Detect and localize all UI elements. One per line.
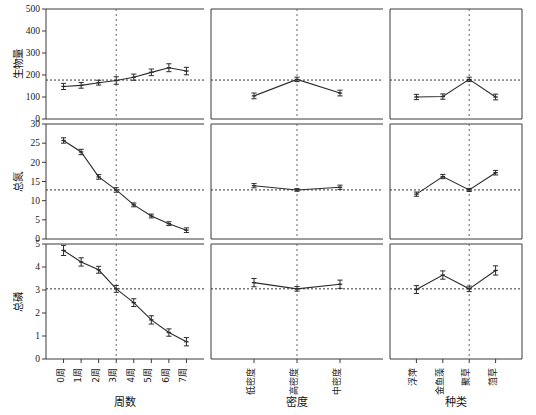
data-point	[61, 83, 66, 89]
data-point	[467, 188, 472, 191]
data-line	[416, 173, 495, 194]
x-axis-title-col2: 密度	[286, 395, 308, 409]
x-axis-title-col3: 种类	[445, 395, 467, 409]
data-point	[337, 280, 342, 288]
y-tick-label: 15	[31, 177, 41, 187]
y-tick-label: 20	[31, 158, 41, 168]
data-point	[166, 329, 171, 336]
data-point	[131, 299, 136, 307]
x-tick-label: 7周	[178, 368, 188, 383]
panel-r2c3	[390, 124, 522, 239]
y-axis-title-row3: 总磷	[12, 291, 24, 312]
data-point	[440, 271, 445, 279]
data-point	[251, 93, 256, 99]
panel-r2c2	[211, 124, 383, 239]
y-tick-label: 100	[26, 92, 41, 102]
y-tick-label: 30	[31, 119, 41, 129]
y-axis-title-row1: 生物量	[12, 48, 24, 79]
y-tick-label: 1	[35, 331, 40, 341]
data-point	[337, 90, 342, 96]
x-tick-label: 0周	[56, 368, 66, 383]
panel-r1c1	[46, 9, 204, 119]
data-point	[166, 64, 171, 72]
panel-grid: 0100200300400500生物量051015202530总氮012345总…	[12, 4, 46, 364]
panel-r1c2	[211, 9, 383, 119]
x-tick-label: 浮萍	[407, 368, 418, 386]
data-point	[96, 80, 101, 85]
data-point	[251, 279, 256, 287]
data-point	[79, 258, 84, 266]
data-point	[61, 245, 66, 255]
panel-r3c1: 0周1周2周3周4周5周6周7周周数	[46, 244, 204, 409]
data-point	[440, 94, 445, 99]
figure-container: 0100200300400500生物量051015202530总氮012345总…	[0, 0, 536, 415]
x-tick-label: 3周	[108, 368, 118, 383]
data-point	[184, 338, 189, 346]
x-tick-label: 菹草	[487, 368, 498, 386]
x-tick-label: 低密度	[245, 368, 256, 395]
y-tick-label: 5	[35, 215, 40, 225]
data-point	[61, 138, 66, 143]
data-point	[414, 286, 419, 294]
y-tick-label: 3	[35, 285, 40, 295]
x-tick-label: 聚草	[460, 368, 471, 386]
y-tick-label: 200	[26, 70, 41, 80]
x-tick-label: 5周	[143, 368, 153, 383]
data-line	[64, 250, 187, 341]
x-tick-label: 1周	[73, 368, 83, 383]
x-tick-label: 金鱼藻	[434, 368, 445, 395]
y-tick-label: 10	[31, 196, 41, 206]
data-point	[294, 77, 299, 81]
y-axis-title-row2: 总氮	[12, 171, 24, 192]
data-point	[493, 266, 498, 275]
data-point	[131, 74, 136, 80]
data-point	[184, 228, 189, 233]
x-tick-label: 高密度	[288, 368, 299, 395]
y-tick-label: 4	[35, 262, 40, 272]
panel-r3c2: 低密度高密度中密度密度	[211, 244, 383, 409]
data-point	[184, 67, 189, 74]
y-tick-label: 300	[26, 48, 41, 58]
x-tick-label: 6周	[161, 368, 171, 383]
data-point	[294, 189, 299, 192]
x-tick-label: 4周	[126, 368, 136, 383]
y-tick-label: 5	[35, 239, 40, 249]
data-line	[416, 270, 495, 289]
data-line	[416, 79, 495, 97]
x-tick-label: 2周	[91, 368, 101, 383]
y-tick-label: 25	[31, 138, 41, 148]
y-tick-label: 0	[35, 354, 40, 364]
y-tick-label: 2	[35, 308, 40, 318]
data-point	[414, 94, 419, 99]
panel-r3c3: 浮萍金鱼藻聚草菹草种类	[390, 244, 522, 409]
data-point	[79, 82, 84, 88]
data-line	[64, 140, 187, 230]
x-axis-title-col1: 周数	[114, 396, 136, 409]
data-point	[251, 184, 256, 188]
data-point	[337, 185, 342, 189]
data-line	[64, 68, 187, 87]
panel-r1c3	[390, 9, 522, 119]
data-point	[114, 77, 119, 84]
data-point	[149, 316, 154, 324]
x-tick-label: 中密度	[331, 368, 342, 395]
data-point	[493, 94, 498, 100]
panel-r2c1	[46, 124, 204, 239]
multi-panel-chart: 0100200300400500生物量051015202530总氮012345总…	[0, 0, 536, 415]
data-point	[294, 287, 299, 292]
y-tick-label: 400	[26, 26, 41, 36]
data-point	[149, 69, 154, 76]
y-tick-label: 500	[26, 4, 41, 14]
